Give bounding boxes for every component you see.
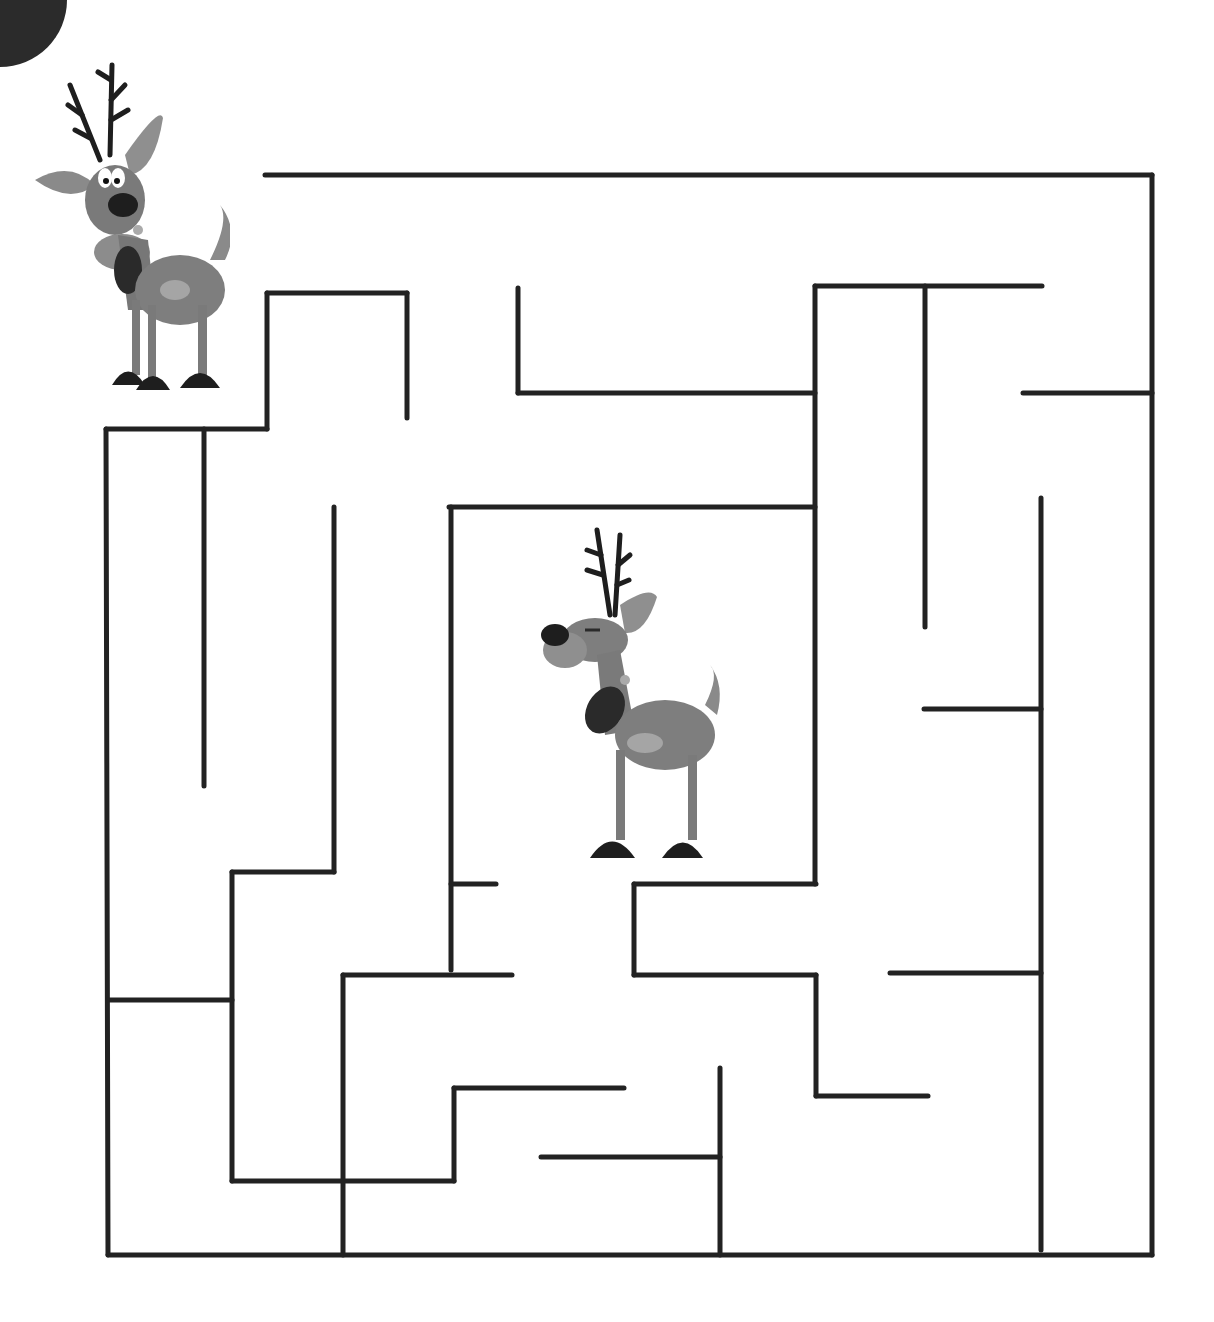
maze-wall (106, 429, 108, 1255)
goal-reindeer-icon (525, 525, 725, 865)
start-reindeer-icon (30, 60, 230, 400)
